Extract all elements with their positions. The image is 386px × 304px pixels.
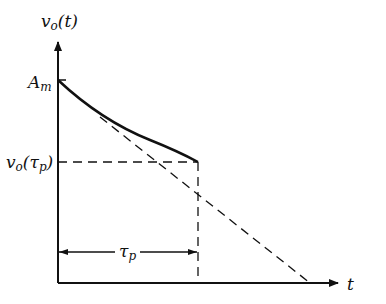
diagram-canvas — [0, 0, 386, 304]
amplitude-label: Am — [28, 74, 52, 93]
decay-curve — [58, 80, 198, 162]
level-label: vo(τp) — [6, 154, 53, 173]
pulse-decay-diagram: vo(t) Am vo(τp) τp t — [0, 0, 386, 304]
duration-label: τp — [119, 243, 136, 262]
y-axis-label: vo(t) — [41, 13, 78, 32]
x-axis-label: t — [347, 276, 354, 293]
